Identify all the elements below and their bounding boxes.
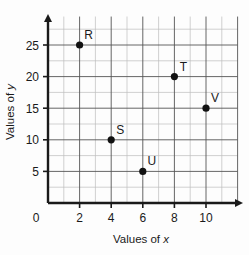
y-tick-label-10: 10 xyxy=(26,133,40,147)
x-tick-label-0: 0 xyxy=(33,211,40,225)
x-tick-label-6: 6 xyxy=(139,211,146,225)
point-label-s: S xyxy=(116,123,124,137)
y-tick-label-5: 5 xyxy=(32,165,39,179)
y-tick-label-25: 25 xyxy=(26,39,40,53)
scatter-plot-figure: 0246810 510152025 RSTUV Values of x Valu… xyxy=(0,0,249,255)
coordinate-plane-svg: 0246810 510152025 RSTUV Values of x Valu… xyxy=(0,0,249,255)
x-axis-title: Values of x xyxy=(113,233,170,245)
data-point-s xyxy=(108,136,115,143)
point-label-t: T xyxy=(180,60,188,74)
data-point-v xyxy=(202,105,209,112)
y-tick-label-15: 15 xyxy=(26,102,40,116)
x-tick-label-2: 2 xyxy=(76,211,83,225)
data-point-t xyxy=(171,73,178,80)
point-label-v: V xyxy=(211,91,219,105)
x-tick-label-10: 10 xyxy=(199,211,213,225)
data-point-r xyxy=(76,41,83,48)
x-tick-label-4: 4 xyxy=(108,211,115,225)
point-label-u: U xyxy=(147,154,156,168)
data-point-u xyxy=(139,168,146,175)
x-tick-label-8: 8 xyxy=(171,211,178,225)
y-axis-title: Values of y xyxy=(4,83,16,140)
point-label-r: R xyxy=(84,28,93,42)
y-tick-label-20: 20 xyxy=(26,70,40,84)
